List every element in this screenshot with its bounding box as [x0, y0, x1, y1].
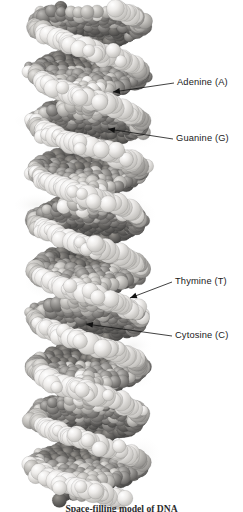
atom-sphere: [75, 383, 90, 398]
callout-label-thymine: Thymine (T): [175, 277, 227, 286]
atom-sphere: [56, 81, 69, 94]
atom-sphere: [74, 143, 87, 156]
atom-sphere: [67, 427, 82, 442]
atom-sphere: [107, 0, 125, 17]
atom-sphere: [88, 484, 104, 500]
atom-sphere: [72, 90, 88, 106]
atom-sphere: [76, 188, 88, 200]
atom-sphere: [108, 142, 125, 159]
dna-figure: Adenine (A) Guanine (G) Thymine (T) Cyto…: [0, 0, 243, 512]
atom-sphere: [102, 389, 114, 401]
atom-sphere: [75, 481, 88, 494]
atom-sphere: [73, 334, 88, 349]
atom-sphere: [81, 434, 95, 448]
atom-sphere: [90, 290, 105, 305]
atom-sphere: [81, 5, 95, 19]
atom-sphere: [52, 481, 66, 495]
callout-label-cytosine: Cytosine (C): [175, 331, 228, 340]
atom-sphere: [100, 196, 117, 213]
atom-sphere: [47, 397, 58, 408]
atom-sphere: [93, 339, 111, 357]
figure-caption: Space-filling model of DNA: [0, 503, 243, 512]
callout-label-guanine: Guanine (G): [176, 134, 229, 143]
atom-sphere: [93, 141, 110, 158]
atom-sphere: [51, 381, 63, 393]
atom-sphere: [56, 7, 66, 17]
atom-sphere: [87, 235, 104, 252]
atom-sphere: [91, 94, 107, 110]
atom-sphere: [63, 279, 77, 293]
atom-sphere: [112, 440, 125, 453]
atom-sphere: [86, 194, 101, 209]
callout-label-adenine: Adenine (A): [177, 78, 228, 87]
atom-sphere: [92, 441, 108, 457]
atom-sphere: [106, 43, 121, 58]
atom-sphere: [83, 44, 95, 56]
